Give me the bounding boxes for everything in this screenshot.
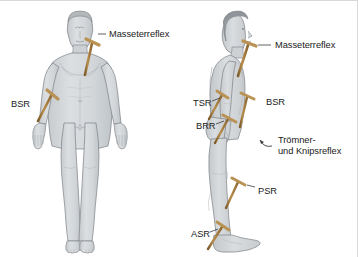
label-psr-lateral: PSR [258, 186, 277, 196]
label-bsr-lateral: BSR [266, 97, 285, 107]
label-bsr-anterior: BSR [11, 99, 30, 109]
anterior-body [33, 11, 128, 253]
label-troemner-line2: und Knipsreflex [278, 146, 341, 156]
leader-psr [247, 185, 255, 187]
label-brr-lateral: BRR [196, 121, 215, 131]
label-masseterreflex-lateral: Masseterreflex [275, 40, 335, 50]
lateral-body [206, 11, 260, 252]
label-troemner-line1: Trömner- [278, 135, 315, 145]
label-asr-lateral: ASR [191, 229, 210, 239]
label-masseterreflex-anterior: Masseterreflex [109, 29, 169, 39]
label-tsr-lateral: TSR [193, 98, 211, 108]
hammer-psr-lateral [226, 178, 245, 208]
reflex-diagram-figure: Masseterreflex BSR Masseterreflex TSR BS… [0, 0, 358, 257]
